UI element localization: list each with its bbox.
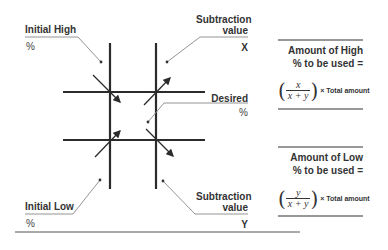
paren-close: ) <box>310 189 318 209</box>
low-fraction: y x + y <box>286 188 311 209</box>
high-suffix: × Total amount <box>320 87 369 94</box>
high-heading-line1: Amount of High <box>268 45 363 56</box>
flow-arrows <box>93 75 173 157</box>
initial-low-label: Initial Low <box>25 201 74 212</box>
subtraction-x-var: X <box>196 42 248 53</box>
diagram-canvas <box>0 0 388 250</box>
low-formula-heading: Amount of Low % to be used = <box>268 152 363 176</box>
arrow-center-to-y <box>146 129 173 156</box>
low-numerator: y <box>294 188 302 198</box>
initial-low-unit: % <box>26 218 35 229</box>
initial-high-label: Initial High <box>25 24 76 35</box>
arrow-low-to-center <box>95 131 120 157</box>
high-heading-line2: % to be used = <box>268 58 363 69</box>
high-denominator: x + y <box>286 90 311 101</box>
paren-open: ( <box>278 189 286 209</box>
high-formula: ( x x + y ) × Total amount <box>278 80 370 101</box>
initial-high-unit: % <box>26 41 35 52</box>
desired-label: Desired <box>196 93 248 104</box>
arrow-high-to-center <box>93 75 120 102</box>
high-fraction: x x + y <box>286 80 311 101</box>
low-formula: ( y x + y ) × Total amount <box>278 188 370 209</box>
subtraction-x-label: Subtraction value <box>196 14 248 36</box>
subtraction-y-line1: Subtraction <box>196 191 248 202</box>
subtraction-y-label: Subtraction value <box>196 191 248 213</box>
subtraction-y-line2: value <box>196 202 248 213</box>
subtraction-y-var: Y <box>196 219 248 230</box>
subtraction-x-line1: Subtraction <box>196 14 248 25</box>
leader-lines <box>25 37 248 214</box>
paren-close: ) <box>310 81 318 101</box>
desired-unit: % <box>196 107 248 118</box>
high-numerator: x <box>294 80 302 90</box>
subtraction-x-line2: value <box>196 25 248 36</box>
high-formula-heading: Amount of High % to be used = <box>268 45 363 69</box>
tic-tac-toe-grid <box>63 43 205 189</box>
low-heading-line1: Amount of Low <box>268 152 363 163</box>
low-suffix: × Total amount <box>320 195 369 202</box>
low-heading-line2: % to be used = <box>268 165 363 176</box>
paren-open: ( <box>278 81 286 101</box>
low-denominator: x + y <box>286 198 311 209</box>
